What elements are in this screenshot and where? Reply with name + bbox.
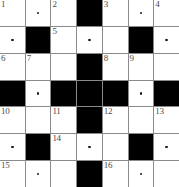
crossword-cell[interactable]: [129, 0, 154, 26]
crossword-block-cell: [0, 81, 25, 107]
crossword-block-cell: [154, 81, 179, 107]
cell-number: 15: [1, 161, 9, 170]
crossword-cell[interactable]: [26, 161, 51, 187]
crossword-cell[interactable]: 5: [51, 27, 76, 53]
cell-number: 11: [52, 107, 60, 116]
crossword-cell[interactable]: [103, 27, 128, 53]
crossword-block-cell: [26, 27, 51, 53]
crossword-cell[interactable]: 3: [103, 0, 128, 26]
crossword-block-cell: [77, 54, 102, 80]
cell-number: 4: [155, 0, 159, 9]
cell-dot-marker-icon: [165, 146, 168, 149]
crossword-cell[interactable]: 12: [103, 107, 128, 133]
crossword-cell[interactable]: 6: [0, 54, 25, 80]
crossword-cell[interactable]: 11: [51, 107, 76, 133]
cell-dot-marker-icon: [37, 12, 40, 15]
crossword-cell[interactable]: [154, 134, 179, 160]
crossword-block-cell: [129, 27, 154, 53]
crossword-block-cell: [77, 0, 102, 26]
cell-dot-marker-icon: [165, 39, 168, 42]
crossword-cell[interactable]: [51, 54, 76, 80]
crossword-cell[interactable]: [0, 27, 25, 53]
crossword-cell[interactable]: [26, 107, 51, 133]
cell-number: 10: [1, 107, 9, 116]
crossword-cell[interactable]: 8: [103, 54, 128, 80]
cell-number: 9: [130, 54, 134, 63]
cell-number: 12: [104, 107, 112, 116]
crossword-cell[interactable]: 2: [51, 0, 76, 26]
cell-number: 13: [155, 107, 163, 116]
cell-number: 1: [1, 0, 5, 9]
crossword-cell[interactable]: 1: [0, 0, 25, 26]
crossword-cell[interactable]: 16: [103, 161, 128, 187]
cell-dot-marker-icon: [11, 146, 14, 149]
crossword-cell[interactable]: [77, 27, 102, 53]
crossword-cell[interactable]: [129, 81, 154, 107]
crossword-cell[interactable]: [77, 134, 102, 160]
cell-number: 16: [104, 161, 112, 170]
crossword-block-cell: [51, 81, 76, 107]
crossword-cell[interactable]: [0, 134, 25, 160]
cell-dot-marker-icon: [11, 39, 14, 42]
crossword-cell[interactable]: [26, 0, 51, 26]
crossword-cell[interactable]: [103, 134, 128, 160]
cell-dot-marker-icon: [140, 12, 143, 15]
cell-dot-marker-icon: [37, 92, 40, 95]
cell-number: 2: [52, 0, 56, 9]
cell-dot-marker-icon: [140, 92, 143, 95]
crossword-block-cell: [26, 134, 51, 160]
cell-number: 8: [104, 54, 108, 63]
crossword-cell[interactable]: 15: [0, 161, 25, 187]
crossword-cell[interactable]: [154, 161, 179, 187]
cell-dot-marker-icon: [37, 173, 40, 176]
crossword-cell[interactable]: 9: [129, 54, 154, 80]
crossword-block-cell: [77, 161, 102, 187]
cell-number: 14: [52, 134, 60, 143]
crossword-block-cell: [103, 81, 128, 107]
cell-dot-marker-icon: [88, 39, 91, 42]
crossword-cell[interactable]: 4: [154, 0, 179, 26]
crossword-cell[interactable]: [154, 27, 179, 53]
crossword-block-cell: [77, 107, 102, 133]
cell-number: 3: [104, 0, 108, 9]
cell-dot-marker-icon: [88, 146, 91, 149]
cell-number: 6: [1, 54, 5, 63]
crossword-cell[interactable]: 7: [26, 54, 51, 80]
crossword-cell[interactable]: [154, 54, 179, 80]
crossword-block-cell: [77, 81, 102, 107]
crossword-cell[interactable]: [51, 161, 76, 187]
cell-dot-marker-icon: [140, 173, 143, 176]
crossword-cell[interactable]: [129, 107, 154, 133]
crossword-grid: 12345678910111213141516: [0, 0, 179, 187]
cell-number: 7: [27, 54, 31, 63]
crossword-cell[interactable]: 13: [154, 107, 179, 133]
cell-number: 5: [52, 27, 56, 36]
crossword-block-cell: [129, 134, 154, 160]
crossword-cell[interactable]: 10: [0, 107, 25, 133]
crossword-cell[interactable]: [129, 161, 154, 187]
crossword-cell[interactable]: 14: [51, 134, 76, 160]
crossword-cell[interactable]: [26, 81, 51, 107]
